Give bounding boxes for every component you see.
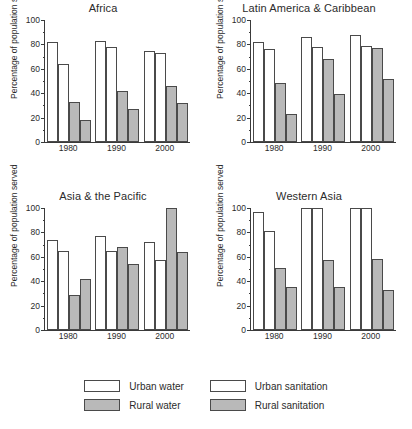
panel-asia-the-pacific: Asia & the PacificPercentage of populati… bbox=[0, 190, 206, 372]
bar-rural-water-1990 bbox=[323, 59, 334, 142]
x-axis-tick-label: 1990 bbox=[299, 143, 345, 159]
legend-column: Urban waterRural water bbox=[84, 380, 183, 426]
bar-group-1980 bbox=[47, 20, 91, 142]
legend-swatch-icon bbox=[210, 399, 246, 411]
bar-urban-water-1990 bbox=[301, 208, 312, 330]
x-axis-tick-label: 1980 bbox=[45, 331, 91, 347]
x-axis-tick-label: 1990 bbox=[299, 331, 345, 347]
y-axis-label: Percentage of population served bbox=[215, 165, 227, 287]
bar-groups bbox=[251, 20, 396, 142]
bar-urban-sanitation-1990 bbox=[312, 47, 323, 142]
bar-rural-sanitation-1990 bbox=[334, 94, 345, 142]
legend-label: Rural water bbox=[129, 400, 180, 411]
plot-area: 020406080100 bbox=[250, 20, 396, 143]
legend-item: Urban sanitation bbox=[210, 380, 328, 392]
bar-urban-sanitation-1980 bbox=[264, 49, 275, 142]
bar-urban-water-2000 bbox=[144, 242, 155, 330]
bar-urban-water-2000 bbox=[350, 35, 361, 142]
bar-rural-water-1990 bbox=[323, 260, 334, 330]
y-axis-label: Percentage of population served bbox=[215, 0, 227, 99]
plot-area: 020406080100 bbox=[250, 208, 396, 331]
bar-urban-water-1990 bbox=[301, 37, 312, 142]
bar-group-2000 bbox=[144, 20, 188, 142]
x-axis-tick-label: 1990 bbox=[93, 143, 139, 159]
bar-urban-sanitation-2000 bbox=[155, 260, 166, 330]
x-axis-tick-label: 2000 bbox=[348, 331, 394, 347]
x-axis-tick-labels: 198019902000 bbox=[44, 331, 189, 347]
bar-rural-sanitation-2000 bbox=[177, 103, 188, 142]
x-axis-tick-label: 2000 bbox=[348, 143, 394, 159]
legend-item: Rural water bbox=[84, 399, 183, 411]
bar-rural-water-1980 bbox=[275, 268, 286, 330]
y-axis-label: Percentage of population served bbox=[9, 0, 21, 99]
panel-title: Africa bbox=[0, 2, 206, 14]
x-axis-tick-label: 1980 bbox=[251, 143, 297, 159]
x-axis-tick-label: 2000 bbox=[142, 331, 188, 347]
bar-urban-sanitation-1990 bbox=[106, 251, 117, 330]
x-axis-tick-label: 1990 bbox=[93, 331, 139, 347]
bar-urban-sanitation-1980 bbox=[264, 231, 275, 330]
bar-rural-sanitation-1980 bbox=[80, 120, 91, 142]
bar-urban-water-1980 bbox=[253, 42, 264, 142]
plot-area: 020406080100 bbox=[44, 20, 190, 143]
bar-group-1980 bbox=[253, 20, 297, 142]
legend-label: Rural sanitation bbox=[255, 400, 324, 411]
panel-title: Asia & the Pacific bbox=[0, 190, 206, 202]
bar-urban-sanitation-1980 bbox=[58, 251, 69, 330]
bar-groups bbox=[45, 20, 190, 142]
bar-urban-sanitation-2000 bbox=[155, 53, 166, 142]
bar-rural-water-2000 bbox=[372, 259, 383, 330]
bar-groups bbox=[45, 208, 190, 330]
bar-rural-water-1980 bbox=[69, 295, 80, 330]
panel-latin-america-caribbean: Latin America & CaribbeanPercentage of p… bbox=[206, 2, 412, 184]
panel-title: Latin America & Caribbean bbox=[206, 2, 412, 14]
plot-area: 020406080100 bbox=[44, 208, 190, 331]
bar-rural-water-2000 bbox=[166, 86, 177, 142]
bar-group-1990 bbox=[301, 20, 345, 142]
legend-swatch-icon bbox=[84, 399, 120, 411]
legend-item: Urban water bbox=[84, 380, 183, 392]
figure-multi-panel-bar-chart: AfricaPercentage of population served020… bbox=[0, 0, 412, 429]
bar-rural-sanitation-1980 bbox=[286, 114, 297, 142]
panel-title: Western Asia bbox=[206, 190, 412, 202]
legend-label: Urban sanitation bbox=[255, 381, 328, 392]
bar-urban-sanitation-1990 bbox=[106, 47, 117, 142]
bar-rural-water-1980 bbox=[275, 83, 286, 142]
x-axis-tick-labels: 198019902000 bbox=[250, 331, 395, 347]
x-axis-tick-labels: 198019902000 bbox=[250, 143, 395, 159]
bar-urban-water-1980 bbox=[253, 212, 264, 330]
bar-rural-water-1980 bbox=[69, 102, 80, 142]
bar-urban-water-2000 bbox=[350, 208, 361, 330]
bar-rural-water-1990 bbox=[117, 91, 128, 142]
bar-rural-sanitation-2000 bbox=[177, 252, 188, 330]
x-axis-tick-label: 1980 bbox=[45, 143, 91, 159]
legend-item: Rural sanitation bbox=[210, 399, 328, 411]
bar-rural-water-2000 bbox=[372, 48, 383, 142]
bar-group-2000 bbox=[350, 208, 394, 330]
bar-urban-sanitation-1980 bbox=[58, 64, 69, 142]
bar-rural-sanitation-2000 bbox=[383, 79, 394, 142]
legend-swatch-icon bbox=[84, 380, 120, 392]
x-axis-tick-labels: 198019902000 bbox=[44, 143, 189, 159]
x-axis-tick-label: 1980 bbox=[251, 331, 297, 347]
panel-africa: AfricaPercentage of population served020… bbox=[0, 2, 206, 184]
legend-swatch-icon bbox=[210, 380, 246, 392]
x-axis-tick-label: 2000 bbox=[142, 143, 188, 159]
legend-column: Urban sanitationRural sanitation bbox=[210, 380, 328, 426]
chart-legend: Urban waterRural waterUrban sanitationRu… bbox=[0, 380, 412, 426]
legend-label: Urban water bbox=[129, 381, 183, 392]
bar-urban-water-1990 bbox=[95, 41, 106, 142]
bar-group-1990 bbox=[95, 208, 139, 330]
bar-urban-water-2000 bbox=[144, 51, 155, 143]
bar-group-1980 bbox=[253, 208, 297, 330]
bar-group-2000 bbox=[350, 20, 394, 142]
bar-group-1990 bbox=[95, 20, 139, 142]
bar-urban-sanitation-1990 bbox=[312, 208, 323, 330]
bar-urban-water-1980 bbox=[47, 240, 58, 330]
bar-group-1980 bbox=[47, 208, 91, 330]
bar-rural-sanitation-1980 bbox=[286, 287, 297, 330]
bar-group-2000 bbox=[144, 208, 188, 330]
bar-urban-water-1980 bbox=[47, 42, 58, 142]
bar-rural-water-2000 bbox=[166, 208, 177, 330]
bar-rural-sanitation-1980 bbox=[80, 279, 91, 330]
